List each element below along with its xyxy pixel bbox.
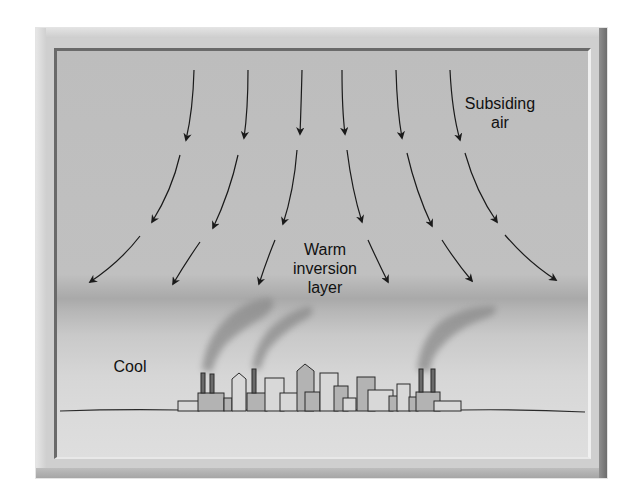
building	[224, 398, 232, 411]
arrow-icon	[213, 155, 238, 228]
arrow-icon	[283, 150, 297, 224]
smokestack	[210, 374, 214, 393]
label-line: air	[460, 113, 540, 132]
building	[305, 392, 320, 411]
arrow-icon	[396, 70, 402, 138]
arrow-icon	[259, 240, 275, 284]
arrow-icon	[152, 155, 180, 222]
smokestack	[252, 369, 256, 393]
building	[178, 401, 199, 411]
arrow-icon	[450, 70, 460, 140]
factory	[247, 393, 267, 411]
label-line: Warm	[280, 240, 370, 259]
smokestack	[201, 373, 205, 393]
cool-label: Cool	[108, 357, 152, 376]
building	[280, 393, 298, 411]
factory	[198, 393, 224, 411]
arrow-icon	[465, 153, 497, 222]
building	[434, 401, 461, 411]
arrow-icon	[90, 236, 140, 282]
smoke-plumes	[202, 298, 496, 372]
label-line: inversion	[280, 259, 370, 278]
arrow-icon	[244, 70, 248, 138]
smokestack	[431, 369, 435, 392]
building	[232, 373, 246, 411]
building	[397, 384, 410, 411]
city-skyline	[178, 364, 461, 411]
subsiding-air-label: Subsiding air	[460, 94, 540, 132]
warm-inversion-layer-label: Warm inversion layer	[280, 240, 370, 297]
smoke-icon	[417, 306, 496, 372]
arrow-icon	[347, 150, 362, 222]
arrow-icon	[186, 70, 194, 140]
smokestack	[419, 369, 423, 392]
arrow-icon	[407, 153, 432, 226]
arrow-icon	[368, 240, 388, 282]
arrow-icon	[342, 70, 345, 134]
building	[343, 398, 356, 411]
arrow-icon	[300, 70, 302, 134]
arrow-icon	[505, 235, 556, 280]
arrow-icon	[173, 242, 200, 284]
arrow-icon	[442, 240, 472, 281]
label-line: Subsiding	[460, 94, 540, 113]
label-line: layer	[280, 278, 370, 297]
